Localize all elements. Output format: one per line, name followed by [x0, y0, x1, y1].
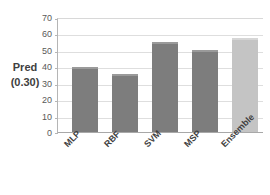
y-tick-label-50: 50 [30, 47, 52, 56]
bar-chart: Pred (0.30) 70 60 50 40 30 20 10 0 MLP [0, 0, 270, 195]
y-tick-label-30: 30 [30, 80, 52, 89]
y-tickmark-40 [55, 68, 58, 69]
y-tickmark-20 [55, 101, 58, 102]
y-tick-label-40: 40 [30, 63, 52, 72]
y-tick-label-20: 20 [30, 96, 52, 105]
y-tickmark-0 [55, 133, 58, 134]
y-tickmark-10 [55, 118, 58, 119]
bar-rbf [112, 74, 138, 132]
y-tickmark-50 [55, 52, 58, 53]
y-tickmark-70 [55, 19, 58, 20]
plot-area [57, 18, 263, 133]
bar-mlp [72, 67, 98, 132]
y-tick-label-10: 10 [30, 113, 52, 122]
y-tickmark-30 [55, 85, 58, 86]
y-tick-label-70: 70 [30, 14, 52, 23]
y-tick-label-0: 0 [30, 129, 52, 138]
y-tick-label-60: 60 [30, 30, 52, 39]
bar-svm [152, 42, 178, 132]
gridline-60 [58, 35, 263, 36]
y-tickmark-60 [55, 35, 58, 36]
bar-msp [192, 50, 218, 132]
